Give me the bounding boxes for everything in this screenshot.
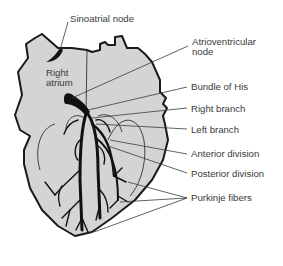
label-purkinje-fibers: Purkinje fibers xyxy=(191,192,252,203)
label-av-node-2: node xyxy=(192,46,213,57)
heart-outline xyxy=(15,34,168,236)
label-left-branch: Left branch xyxy=(191,124,239,135)
label-sinoatrial-node: Sinoatrial node xyxy=(70,13,134,24)
label-anterior-division: Anterior division xyxy=(191,148,259,159)
label-posterior-division: Posterior division xyxy=(191,168,264,179)
label-bundle-of-his: Bundle of His xyxy=(191,81,248,92)
label-right-branch: Right branch xyxy=(191,103,245,114)
label-right-atrium-2: atrium xyxy=(46,77,73,88)
leader-sinoatrial xyxy=(60,22,68,50)
